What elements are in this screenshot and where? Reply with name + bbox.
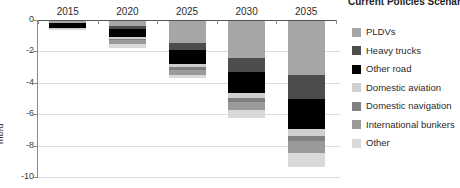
x-axis-tick-mark <box>157 20 158 24</box>
legend-item-other-road[interactable]: Other road <box>352 63 411 75</box>
legend-item-domestic-navigation[interactable]: Domestic navigation <box>352 100 452 112</box>
legend-item-label: International bunkers <box>366 120 455 130</box>
x-axis-label-2035: 2035 <box>281 6 331 17</box>
legend-swatch-icon <box>352 46 361 55</box>
legend-swatch-icon <box>352 102 361 111</box>
legend-swatch-icon <box>352 65 361 74</box>
legend-swatch-icon <box>352 139 361 148</box>
chart-legend: Current Policies Scenario PLDVsHeavy tru… <box>344 0 458 188</box>
gridline <box>37 177 340 178</box>
bar-segment[interactable] <box>288 153 325 167</box>
bar-2025[interactable] <box>169 21 206 78</box>
bar-segment[interactable] <box>228 110 265 118</box>
legend-item-pldvs[interactable]: PLDVs <box>352 26 396 38</box>
y-axis-tick-label: 0 <box>8 15 34 24</box>
legend-item-label: Domestic aviation <box>366 83 441 93</box>
legend-item-label: Other <box>366 138 390 148</box>
bar-segment[interactable] <box>169 75 206 78</box>
bar-segment[interactable] <box>169 43 206 50</box>
bar-segment[interactable] <box>228 102 265 111</box>
legend-item-label: PLDVs <box>366 27 396 37</box>
x-axis-label-2025: 2025 <box>162 6 212 17</box>
bar-segment[interactable] <box>228 72 265 93</box>
plot-area: mb/d 0-2-4-6-8-10 20152020202520302035 <box>0 0 340 188</box>
y-axis-tick-label: -4 <box>8 78 34 87</box>
y-axis-tick-label: -8 <box>8 141 34 150</box>
y-axis-tick-labels: 0-2-4-6-8-10 <box>0 0 34 188</box>
legend-item-label: Domestic navigation <box>366 101 452 111</box>
x-axis-label-2020: 2020 <box>102 6 152 17</box>
legend-swatch-icon <box>352 28 361 37</box>
x-axis-label-2030: 2030 <box>222 6 272 17</box>
y-axis-tick-label: -2 <box>8 46 34 55</box>
x-axis-tick-mark <box>217 20 218 24</box>
bar-2035[interactable] <box>288 21 325 167</box>
x-axis-tick-mark <box>98 20 99 24</box>
legend-swatch-icon <box>352 120 361 129</box>
legend-swatch-icon <box>352 83 361 92</box>
bar-segment[interactable] <box>228 21 265 58</box>
bar-segment[interactable] <box>109 29 146 38</box>
bar-segment[interactable] <box>288 99 325 129</box>
legend-item-other[interactable]: Other <box>352 137 390 149</box>
y-axis-tick-label: -6 <box>8 109 34 118</box>
bar-2020[interactable] <box>109 21 146 48</box>
y-axis-tick-label: -10 <box>8 172 34 181</box>
legend-item-label: Heavy trucks <box>366 46 421 56</box>
bar-segment[interactable] <box>109 44 146 48</box>
legend-item-label: Other road <box>366 64 411 74</box>
bar-segment[interactable] <box>288 21 325 75</box>
x-axis-tick-mark <box>38 20 39 24</box>
legend-item-heavy-trucks[interactable]: Heavy trucks <box>352 45 421 57</box>
bar-2015[interactable] <box>49 21 86 30</box>
bar-2030[interactable] <box>228 21 265 118</box>
y-axis-spine <box>37 20 38 178</box>
legend-item-domestic-aviation[interactable]: Domestic aviation <box>352 82 441 94</box>
legend-title: Current Policies Scenario <box>348 0 460 5</box>
x-axis-label-2015: 2015 <box>43 6 93 17</box>
x-axis-tick-mark <box>276 20 277 24</box>
bar-segment[interactable] <box>288 141 325 153</box>
x-axis-tick-mark <box>336 20 337 24</box>
bar-segment[interactable] <box>228 58 265 72</box>
bar-segment[interactable] <box>169 50 206 64</box>
bar-segment[interactable] <box>169 21 206 43</box>
bar-segment[interactable] <box>288 75 325 99</box>
legend-item-international-bunkers[interactable]: International bunkers <box>352 119 455 131</box>
